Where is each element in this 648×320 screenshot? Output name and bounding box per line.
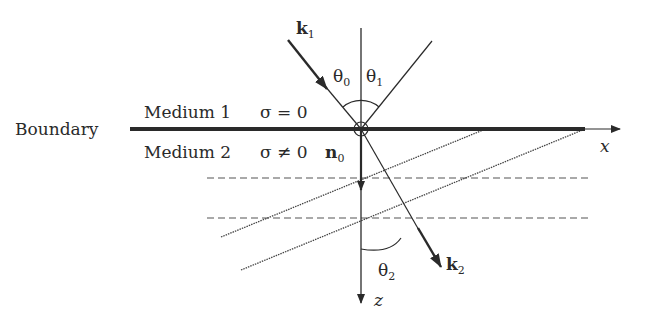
- sigma1-label: σ = 0: [260, 104, 307, 121]
- theta2-arc: [361, 238, 401, 250]
- k2-arrow: [418, 228, 441, 267]
- k1-label: k1: [296, 20, 315, 40]
- refraction-diagram: [0, 0, 648, 320]
- medium2-label: Medium 2: [144, 144, 231, 161]
- n0-label: n0: [325, 144, 344, 164]
- k1-arrow: [288, 40, 327, 89]
- boundary-label: Boundary: [15, 121, 98, 138]
- theta0-label: θ0: [333, 68, 350, 88]
- refracted-ray: [361, 129, 420, 232]
- z-axis-label: z: [374, 292, 383, 309]
- sigma2-label: σ ≠ 0: [260, 144, 307, 161]
- medium1-label: Medium 1: [144, 104, 231, 121]
- k2-label: k2: [446, 256, 465, 276]
- theta2-label: θ2: [378, 262, 395, 282]
- theta1-label: θ1: [366, 68, 383, 88]
- x-axis-label: x: [600, 138, 610, 155]
- incident-ray: [325, 86, 361, 129]
